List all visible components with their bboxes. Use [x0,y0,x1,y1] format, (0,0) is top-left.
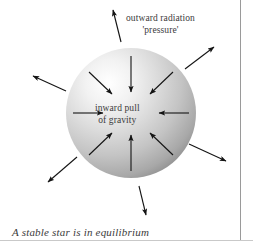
gravity-label: inward pull of gravity [95,103,140,126]
outward-arrow-top [113,10,121,42]
outward-arrow-right [189,144,226,161]
star-equilibrium-figure: outward radiation 'pressure' inward pull… [0,0,253,249]
right-border-rule [240,0,241,240]
gravity-label-line2: of gravity [95,115,140,127]
figure-caption: A stable star is in equilibrium [12,226,149,239]
radiation-label-line1: outward radiation [126,13,195,25]
outward-arrow-bottom-left [48,157,77,182]
radiation-label-line2: 'pressure' [126,25,195,37]
outward-arrow-top-left [33,76,66,91]
radiation-label: outward radiation 'pressure' [126,13,195,36]
gravity-label-line1: inward pull [95,103,140,115]
bottom-border-rule [0,240,253,241]
outward-arrow-top-right [185,47,214,69]
outward-arrow-bottom [139,186,146,215]
